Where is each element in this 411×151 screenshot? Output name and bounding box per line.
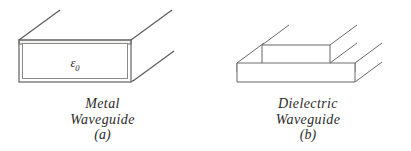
waveguide-figure: ε0 Metal Waveguide (a) (0, 0, 411, 151)
panel-metal-waveguide: ε0 Metal Waveguide (a) (0, 0, 205, 151)
caption-line-2: Waveguide (0, 112, 205, 128)
perspective-line-ridge-top-right (330, 25, 357, 45)
metal-waveguide-drawing (0, 0, 205, 96)
perspective-line-top-left (19, 10, 60, 40)
permittivity-subscript: 0 (75, 63, 79, 73)
caption-line-1: Dielectric (205, 96, 411, 112)
panel-dielectric-waveguide: εrε0 Dielectric Waveguide (b) (205, 0, 411, 151)
panel-tag: (a) (0, 127, 205, 143)
perspective-line-step-left (262, 25, 289, 45)
perspective-line-base-right-top (355, 43, 382, 63)
dielectric-waveguide-drawing (205, 0, 411, 96)
caption-line-1: Metal (0, 96, 205, 112)
caption-dielectric-waveguide: Dielectric Waveguide (b) (205, 96, 411, 143)
perspective-line-base-left (237, 43, 264, 63)
slab-base-front-face (237, 63, 355, 82)
permittivity-label-metal: ε0 (0, 56, 150, 73)
caption-metal-waveguide: Metal Waveguide (a) (0, 96, 205, 143)
panel-tag: (b) (205, 127, 411, 143)
perspective-line-shoulder-right (330, 43, 357, 63)
perspective-line-base-right-bottom (355, 62, 382, 82)
caption-line-2: Waveguide (205, 112, 411, 128)
perspective-line-top-right (131, 10, 172, 40)
